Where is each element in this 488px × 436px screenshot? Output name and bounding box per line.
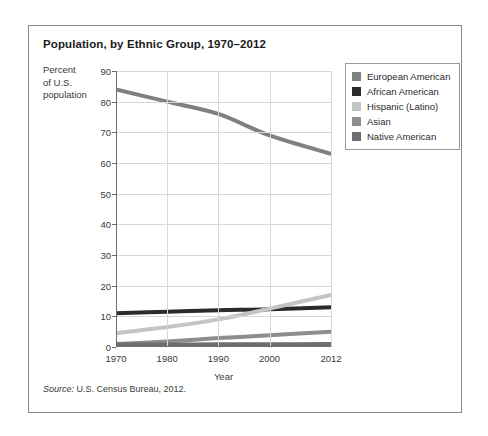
page-title: Population, by Ethnic Group, 1970–2012 — [43, 38, 266, 50]
y-tick-mark — [112, 102, 116, 103]
y-tick-label: 30 — [100, 250, 111, 261]
y-tick-mark — [112, 316, 116, 317]
legend-swatch-icon — [352, 102, 361, 111]
source-note: Source: U.S. Census Bureau, 2012. — [43, 384, 186, 394]
legend-swatch-icon — [352, 117, 361, 126]
y-tick-label: 90 — [100, 66, 111, 77]
legend-item-label: European American — [367, 71, 450, 82]
y-axis-label-line-1: Percent — [43, 64, 107, 77]
y-tick-mark — [112, 71, 116, 72]
y-tick-mark — [112, 163, 116, 164]
y-tick-mark — [112, 194, 116, 195]
x-tick-label: 2012 — [320, 353, 341, 364]
chart-card: Population, by Ethnic Group, 1970–2012 P… — [28, 25, 462, 413]
legend-item[interactable]: Hispanic (Latino) — [352, 99, 453, 114]
x-tick-label: 1970 — [105, 353, 126, 364]
y-tick-label: 60 — [100, 158, 111, 169]
y-tick-label: 80 — [100, 96, 111, 107]
legend-item-label: Asian — [367, 116, 391, 127]
y-tick-mark — [112, 347, 116, 348]
y-tick-label: 70 — [100, 127, 111, 138]
x-tick-label: 1980 — [157, 353, 178, 364]
y-tick-mark — [112, 255, 116, 256]
y-axis-label: Percent of U.S. population — [43, 64, 107, 102]
legend-item[interactable]: African American — [352, 84, 453, 99]
x-tick-label: 1990 — [208, 353, 229, 364]
legend-item-label: African American — [367, 86, 439, 97]
y-tick-label: 40 — [100, 219, 111, 230]
source-label: Source: — [43, 384, 74, 394]
y-tick-mark — [112, 132, 116, 133]
y-tick-label: 20 — [100, 280, 111, 291]
x-axis-label: Year — [116, 371, 331, 382]
y-tick-label: 0 — [106, 342, 111, 353]
y-axis-label-line-3: population — [43, 89, 107, 102]
y-tick-mark — [112, 286, 116, 287]
legend-item[interactable]: European American — [352, 69, 453, 84]
legend: European AmericanAfrican AmericanHispani… — [345, 63, 460, 150]
legend-swatch-icon — [352, 87, 361, 96]
plot-axes — [116, 71, 331, 347]
legend-item-label: Hispanic (Latino) — [367, 101, 438, 112]
legend-item[interactable]: Native American — [352, 129, 453, 144]
legend-swatch-icon — [352, 132, 361, 141]
gridline-vertical — [331, 71, 332, 347]
y-tick-label: 10 — [100, 311, 111, 322]
y-tick-mark — [112, 224, 116, 225]
source-value: U.S. Census Bureau, 2012. — [74, 384, 186, 394]
legend-swatch-icon — [352, 72, 361, 81]
legend-item[interactable]: Asian — [352, 114, 453, 129]
y-axis-label-line-2: of U.S. — [43, 77, 107, 90]
y-tick-label: 50 — [100, 188, 111, 199]
x-tick-label: 2000 — [259, 353, 280, 364]
plot-area: 0102030405060708090 19701980199020002012 — [116, 71, 331, 347]
legend-item-label: Native American — [367, 131, 436, 142]
